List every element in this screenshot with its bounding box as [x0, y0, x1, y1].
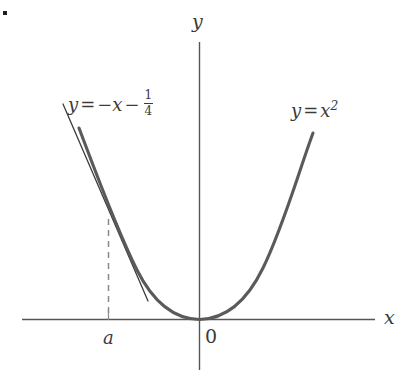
parabola-equation-label: y=x2 — [291, 100, 338, 120]
parabola-eq-lhs: y — [291, 100, 301, 121]
parabola-eq-exponent: 2 — [330, 99, 338, 113]
x-axis-label: x — [384, 308, 395, 327]
y-axis-label: y — [192, 12, 203, 31]
tangent-eq-minus: − — [123, 94, 142, 115]
tangent-eq-lhs: y — [68, 94, 78, 115]
tangent-line — [63, 104, 148, 301]
parabola-eq-base: x — [320, 100, 330, 121]
tangent-equation-label: y=−x− 1 4 — [68, 89, 153, 118]
fraction-numerator: 1 — [144, 89, 154, 103]
tangent-eq-operator: = — [78, 94, 97, 115]
figure-canvas: y x 0 a y=x2 y=−x− 1 4 — [0, 0, 411, 391]
fraction-denominator: 4 — [144, 104, 154, 118]
tangent-eq-term1: −x — [97, 94, 122, 115]
tangent-eq-fraction: 1 4 — [144, 89, 154, 118]
origin-label: 0 — [205, 327, 217, 346]
x-tick-label-a: a — [103, 329, 114, 347]
parabola-eq-operator: = — [301, 100, 320, 121]
